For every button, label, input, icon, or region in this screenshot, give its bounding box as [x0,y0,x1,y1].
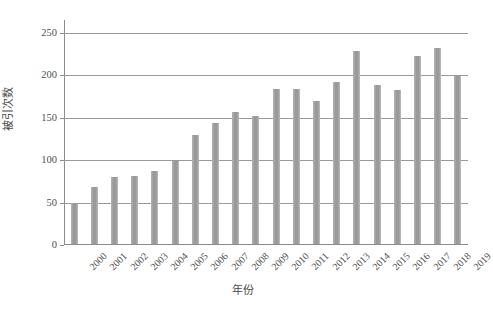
bar-2007 [212,123,219,244]
bar-2011 [293,89,300,244]
bar-2010 [273,89,280,244]
gridline-200 [64,75,468,76]
bar-2016 [394,90,401,244]
y-tick-mark-150 [60,118,64,119]
bar-2008 [232,112,239,244]
bar-2000 [71,203,78,244]
bar-2006 [192,135,199,244]
y-tick-label-250: 250 [41,27,57,38]
x-tick-label-2011: 2011 [310,251,331,272]
x-tick-label-2016: 2016 [411,251,432,272]
x-tick-label-2013: 2013 [351,251,372,272]
x-tick-label-2001: 2001 [108,251,129,272]
bar-2013 [333,82,340,244]
gridline-150 [64,118,468,119]
x-tick-label-2002: 2002 [128,251,149,272]
bar-2015 [374,85,381,244]
y-tick-mark-250 [60,33,64,34]
gridline-250 [64,33,468,34]
x-tick-label-2012: 2012 [330,251,351,272]
bar-2003 [131,176,138,244]
bar-2004 [151,171,158,244]
y-tick-mark-0 [60,245,64,246]
bar-2012 [313,101,320,244]
x-tick-label-2015: 2015 [391,251,412,272]
y-tick-label-0: 0 [52,240,57,251]
x-tick-label-2008: 2008 [250,251,271,272]
y-tick-label-100: 100 [41,155,57,166]
y-tick-mark-200 [60,75,64,76]
bar-2005 [172,161,179,244]
gridline-100 [64,160,468,161]
bar-2009 [252,116,259,244]
gridline-0 [64,245,468,246]
y-axis-title: 被引次数 [0,69,17,149]
x-tick-label-2006: 2006 [209,251,230,272]
gridline-50 [64,203,468,204]
y-tick-label-150: 150 [41,112,57,123]
x-tick-label-2000: 2000 [88,251,109,272]
x-axis-title: 年份 [0,281,485,297]
bar-2018 [434,48,441,244]
x-tick-label-2019: 2019 [472,251,493,272]
bar-2014 [353,51,360,244]
y-tick-mark-50 [60,203,64,204]
x-tick-label-2005: 2005 [189,251,210,272]
x-tick-label-2004: 2004 [169,251,190,272]
bar-2017 [414,56,421,244]
x-tick-label-2018: 2018 [452,251,473,272]
bar-2002 [111,177,118,244]
x-tick-label-2014: 2014 [371,251,392,272]
plot-area: 050100150200250 200020012002200320042005… [64,20,468,245]
y-axis-title-label: 被引次数 [0,69,17,149]
x-tick-label-2010: 2010 [290,251,311,272]
y-tick-label-50: 50 [47,197,58,208]
bar-2001 [91,187,98,244]
x-tick-label-2007: 2007 [229,251,250,272]
bar-2019 [454,76,461,244]
x-tick-label-2009: 2009 [270,251,291,272]
y-axis-line [64,20,65,245]
y-tick-label-200: 200 [41,70,57,81]
x-tick-label-2017: 2017 [431,251,452,272]
y-tick-mark-100 [60,160,64,161]
x-tick-label-2003: 2003 [149,251,170,272]
